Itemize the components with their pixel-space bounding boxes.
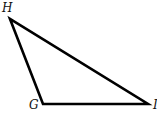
triangle-diagram: H G I: [0, 0, 157, 115]
vertex-label-h: H: [1, 1, 13, 15]
vertex-label-i: I: [152, 98, 157, 112]
triangle-ghi: [10, 19, 148, 104]
vertex-label-g: G: [29, 98, 39, 112]
